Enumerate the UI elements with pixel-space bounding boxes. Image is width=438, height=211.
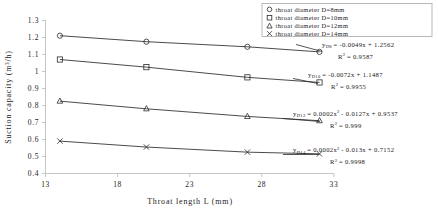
x-tick-label: 23 (185, 180, 194, 189)
r2-superscript: 2 (335, 121, 338, 126)
eq-body-2: - 0.013x + 0.7152 (341, 146, 394, 153)
eq-body: = -0.0049x + 1.2562 (333, 41, 394, 48)
r2-superscript: 2 (336, 82, 339, 87)
eq-body: = -0.0072x + 1.1487 (322, 71, 383, 78)
eq-body: = 0.0002x (307, 110, 337, 117)
r2-value: = 0.9955 (340, 83, 367, 90)
eq-subscript: D12 (297, 113, 306, 118)
r2-value: = 0.9587 (347, 53, 374, 60)
chart-container: 0.4 0.5 0.6 0.7 0.8 0.9 1 1.1 1.2 1.3 13… (0, 0, 438, 211)
eq-superscript: 2 (337, 109, 340, 114)
legend: throat diameter D=8mm throat diameter D=… (262, 4, 432, 38)
y-axis-title: Suction capacity (m³/h) (4, 50, 13, 144)
r2-value: = 0.9998 (339, 158, 366, 165)
r2-superscript: 2 (335, 158, 338, 163)
x-tick-label: 13 (41, 180, 50, 189)
y-tick-label: 0.5 (28, 152, 39, 161)
x-tick-label: 33 (330, 180, 339, 189)
eq-subscript: D10 (312, 74, 321, 79)
eq-subscript: D14 (297, 150, 306, 155)
y-tick-label: 0.7 (28, 118, 39, 127)
y-tick-label: 1 (35, 67, 39, 76)
y-tick-label: 1.3 (28, 16, 39, 25)
x-axis-title: Throat length L (mm) (147, 197, 233, 206)
legend-label-d14: throat diameter D=14mm (276, 30, 349, 37)
x-tick-label: 18 (113, 180, 122, 189)
r2-superscript: 2 (343, 52, 346, 57)
eq-body: = 0.0002x (307, 146, 337, 153)
eq-subscript: D8 (326, 44, 333, 49)
y-tick-label: 0.9 (28, 84, 39, 93)
y-tick-label: 0.6 (28, 135, 39, 144)
legend-label-d12: throat diameter D=12mm (276, 22, 349, 29)
eq-body-2: - 0.0127x + 0.9537 (341, 110, 398, 117)
legend-label-d10: throat diameter D=10mm (276, 14, 349, 21)
y-tick-label: 0.8 (28, 101, 39, 110)
legend-label-d8: throat diameter D=8mm (276, 6, 345, 13)
eq-superscript: 2 (337, 146, 340, 151)
y-tick-label: 1.2 (28, 33, 39, 42)
r2-value: = 0.999 (339, 122, 362, 129)
x-tick-label: 28 (257, 180, 266, 189)
suction-capacity-line-chart: 0.4 0.5 0.6 0.7 0.8 0.9 1 1.1 1.2 1.3 13… (0, 0, 438, 211)
y-tick-label: 0.4 (28, 169, 39, 178)
y-tick-label: 1.1 (28, 50, 39, 59)
